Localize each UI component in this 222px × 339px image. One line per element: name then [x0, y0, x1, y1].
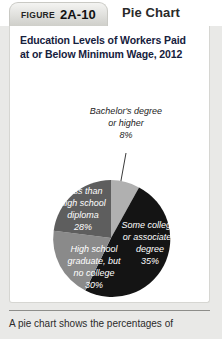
caption-divider [9, 310, 210, 311]
pie-label-high-school-percent: 30% [85, 280, 103, 290]
pie-label-bachelors-line-2: or higher [108, 118, 145, 128]
pie-label-some-college-line-2: or associate's [123, 232, 178, 242]
pie-chart-area: Bachelor's degree or higher 8% Some coll… [10, 62, 210, 300]
pie-label-high-school-line-3: no college [73, 268, 114, 278]
figure-number: 2A-10 [60, 8, 96, 21]
pie-label-bachelors-line-1: Bachelor's degree [90, 106, 162, 116]
chart-title-line-1: Education Levels of Workers Paid [20, 34, 186, 46]
pie-label-less-than-hs-line-1: Less than [63, 186, 102, 196]
figure-tab-strip: FIGURE 2A-10 Pie Chart [0, 0, 222, 26]
figure-caption: A pie chart shows the percentages of [9, 317, 214, 331]
pie-label-less-than-hs-line-2: high school [60, 198, 107, 208]
pie-label-less-than-hs-line-3: diploma [67, 210, 99, 220]
chart-title-line-2: at or Below Minimum Wage, 2012 [20, 48, 182, 60]
pie-label-some-college-percent: 35% [141, 256, 159, 266]
figure-container: FIGURE 2A-10 Pie Chart Education Levels … [0, 0, 222, 339]
pie-label-less-than-hs-percent: 28% [73, 222, 92, 232]
pie-chart-svg: Bachelor's degree or higher 8% Some coll… [10, 62, 210, 300]
pie-label-bachelors-percent: 8% [119, 130, 132, 140]
pie-label-high-school-line-1: High school [70, 244, 118, 254]
chart-title: Education Levels of Workers Paid at or B… [20, 34, 202, 61]
chart-panel: Education Levels of Workers Paid at or B… [9, 26, 210, 303]
pie-label-some-college-line-1: Some college, [121, 220, 178, 230]
figure-tab-title: Pie Chart [122, 4, 180, 22]
pie-label-some-college-line-3: degree [136, 244, 164, 254]
pie-label-high-school-line-2: graduate, but [67, 256, 121, 266]
figure-label: FIGURE [21, 11, 55, 20]
figure-number-tab[interactable]: FIGURE 2A-10 [9, 2, 108, 26]
